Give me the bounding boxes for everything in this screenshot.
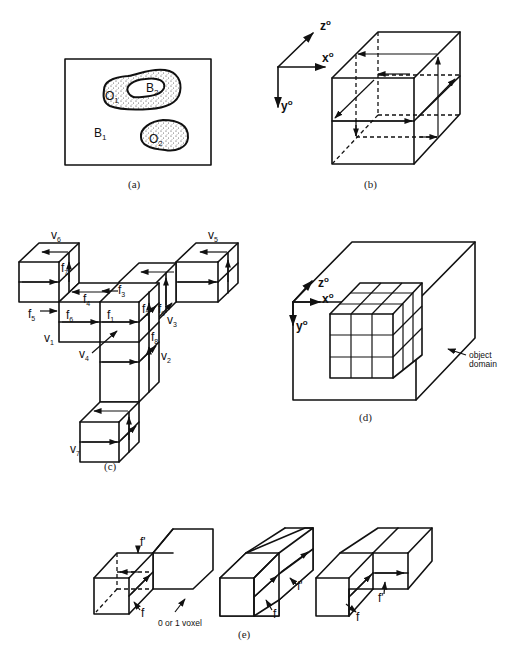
z-axis-arrow-d — [293, 281, 312, 302]
label-f-prime-3: f' — [378, 591, 384, 605]
object-o2-region — [141, 120, 188, 151]
caption-b: (b) — [364, 178, 377, 191]
label-f-prime-2: f' — [297, 579, 303, 593]
svg-text:v3: v3 — [167, 313, 177, 328]
label-y-d: yo — [296, 318, 308, 333]
voxel-center — [92, 283, 159, 402]
panel-b: zo xo yo (b) — [278, 18, 460, 191]
label-z-d: zo — [318, 275, 329, 290]
caption-d: (d) — [359, 411, 372, 424]
label-x: xo — [322, 50, 334, 65]
voxel-figure: O1 B2 B1 O2 (a) zo xo yo — [0, 0, 519, 657]
caption-c: (c) — [104, 460, 117, 473]
z-axis-arrow — [278, 33, 313, 67]
svg-text:v4: v4 — [79, 347, 89, 362]
label-f-3: f — [356, 610, 360, 624]
object-domain-label-2: domain — [469, 359, 497, 369]
voxel-v7 — [80, 402, 139, 462]
svg-text:v7: v7 — [70, 442, 80, 457]
panel-e-config-1: f' f 0 or 1 voxel — [94, 529, 213, 628]
label-b1: B1 — [94, 126, 107, 142]
svg-text:v1: v1 — [44, 331, 54, 346]
caption-e: (e) — [238, 628, 251, 641]
voxel-v5 — [176, 243, 238, 302]
svg-text:v2: v2 — [161, 349, 171, 364]
label-z: zo — [320, 18, 331, 33]
panel-e-config-3: f f' — [316, 528, 432, 624]
svg-text:v5: v5 — [208, 228, 218, 243]
panel-a: O1 B2 B1 O2 (a) — [65, 59, 211, 191]
panel-e: f' f 0 or 1 voxel f f' — [94, 528, 432, 641]
label-voxel-note: 0 or 1 voxel — [158, 618, 202, 628]
two-voxel-cube — [332, 32, 460, 164]
label-f-1: f — [141, 606, 145, 620]
label-f-prime-1: f' — [140, 535, 146, 549]
panel-e-config-2: f f' — [220, 528, 313, 621]
label-y: yo — [281, 98, 293, 113]
caption-a: (a) — [128, 178, 141, 191]
svg-text:v6: v6 — [51, 228, 61, 243]
svg-text:f5: f5 — [28, 307, 35, 322]
label-x-d: xo — [322, 291, 334, 306]
panel-d: zo xo yo object domain (d) — [293, 242, 497, 424]
panel-c: f1 f2 f3 f4 f5 f6 f7 f8 f9 v1 v2 v3 v4 v… — [19, 228, 238, 473]
voxel-3x3x3-cube — [330, 283, 422, 378]
